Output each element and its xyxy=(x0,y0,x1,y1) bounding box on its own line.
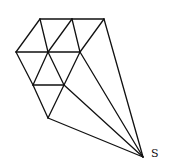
edge-IS xyxy=(48,118,143,157)
edge-BF xyxy=(72,19,80,52)
apex-label: S xyxy=(151,147,159,160)
edge-CF xyxy=(80,19,104,52)
edge-AE xyxy=(40,19,48,52)
edge-DG xyxy=(16,52,33,85)
edge-GI xyxy=(33,85,48,118)
edge-FH xyxy=(64,52,80,85)
edge-HI xyxy=(48,85,64,118)
edge-EH xyxy=(48,52,64,85)
edge-BE xyxy=(48,19,72,52)
edge-AD xyxy=(16,19,40,52)
edge-CS xyxy=(104,19,143,157)
edge-HS xyxy=(64,85,143,157)
edge-FS xyxy=(80,52,143,157)
edge-EG xyxy=(33,52,48,85)
diagram-canvas xyxy=(0,0,175,167)
